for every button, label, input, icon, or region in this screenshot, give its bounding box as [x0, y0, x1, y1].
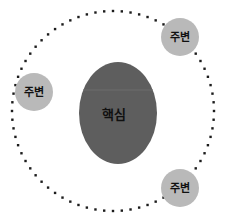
orbit-dot	[212, 101, 214, 103]
orbit-dot	[207, 76, 209, 78]
orbit-dot	[146, 204, 148, 206]
orbit-dot	[138, 206, 140, 208]
satellite-bottom-right-label: 주변	[170, 181, 190, 195]
orbit-dot	[61, 23, 63, 25]
orbit-dot	[212, 119, 214, 121]
orbit-dot	[211, 92, 213, 94]
orbit-dot	[213, 110, 215, 112]
orbit-dot	[54, 192, 56, 194]
diagram-canvas: 핵심 주변주변주변	[0, 0, 232, 222]
orbit-dot	[94, 208, 96, 210]
orbit-dot	[11, 110, 13, 112]
orbit-dot	[77, 204, 79, 206]
orbit-dot	[207, 144, 209, 146]
orbit-dot	[77, 16, 79, 18]
orbit-dot	[121, 10, 123, 12]
orbit-dot	[154, 200, 156, 202]
orbit-dot	[203, 68, 205, 70]
orbit-dot	[112, 210, 114, 212]
orbit-dot	[199, 60, 201, 62]
orbit-dot	[11, 101, 13, 103]
core-node[interactable]: 핵심	[79, 62, 157, 164]
orbit-dot	[129, 11, 131, 13]
orbit-dot	[14, 136, 16, 138]
orbit-dot	[20, 68, 22, 70]
orbit-dot	[154, 19, 156, 21]
orbit-dot	[103, 209, 105, 211]
orbit-dot	[29, 52, 31, 54]
orbit-dot	[129, 208, 131, 210]
orbit-dot	[112, 10, 114, 12]
orbit-dot	[40, 39, 42, 41]
orbit-dot	[24, 60, 26, 62]
orbit-dot	[86, 13, 88, 15]
orbit-dot	[20, 152, 22, 154]
core-label: 핵심	[102, 107, 126, 122]
orbit-dot	[69, 200, 71, 202]
orbit-dot	[17, 76, 19, 78]
orbit-dot	[12, 92, 14, 94]
orbit-dot	[146, 16, 148, 18]
orbit-dot	[29, 167, 31, 169]
orbit-dot	[47, 186, 49, 188]
orbit-dot	[54, 28, 56, 30]
orbit-dot	[209, 136, 211, 138]
orbit-dot	[12, 127, 14, 129]
orbit-dot	[195, 52, 197, 54]
orbit-dot	[103, 10, 105, 12]
orbit-dot	[94, 11, 96, 13]
orbit-dot	[203, 152, 205, 154]
satellite-bottom-right[interactable]: 주변	[161, 169, 199, 207]
satellite-left-label: 주변	[24, 85, 44, 99]
orbit-dot	[34, 174, 36, 176]
orbit-dot	[121, 209, 123, 211]
orbit-dot	[195, 167, 197, 169]
orbit-dot	[61, 196, 63, 198]
orbit-dot	[34, 46, 36, 48]
orbit-dot	[24, 160, 26, 162]
orbit-dot	[211, 127, 213, 129]
orbit-diagram: 핵심 주변주변주변	[0, 0, 232, 222]
orbit-dot	[40, 181, 42, 183]
orbit-dot	[17, 144, 19, 146]
orbit-dot	[47, 33, 49, 35]
orbit-dot	[162, 23, 164, 25]
satellite-top-right[interactable]: 주변	[161, 18, 199, 56]
orbit-dot	[69, 19, 71, 21]
orbit-dot	[138, 13, 140, 15]
orbit-dot	[86, 206, 88, 208]
orbit-dot	[209, 84, 211, 86]
satellite-top-right-label: 주변	[170, 30, 190, 44]
satellite-left[interactable]: 주변	[15, 73, 53, 111]
orbit-dot	[199, 160, 201, 162]
orbit-dot	[11, 119, 13, 121]
